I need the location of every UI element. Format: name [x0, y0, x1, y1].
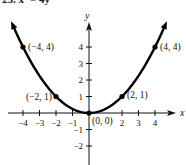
data-point [152, 44, 157, 49]
x-tick-label: −2 [51, 118, 61, 128]
y-tick-label: 3 [79, 59, 84, 69]
point-label: (4, 4) [160, 42, 181, 53]
x-tick-label: −3 [35, 118, 45, 128]
y-tick-label: 1 [79, 92, 84, 102]
y-tick-label: −2 [73, 141, 83, 151]
curve-arrow-right-icon [161, 21, 167, 30]
data-point [86, 110, 91, 115]
data-point [119, 94, 124, 99]
point-label: (2, 1) [127, 90, 148, 101]
parabola-chart: xy−4−3−2−12344321−1−2(−4, 4)(−2, 1)(0, 0… [0, 0, 186, 165]
curve-arrow-left-icon [11, 21, 17, 30]
data-point [20, 44, 25, 49]
point-label: (−4, 4) [28, 42, 54, 53]
y-axis-label: y [84, 10, 90, 21]
x-tick-label: 2 [120, 118, 125, 128]
data-point [53, 94, 58, 99]
x-tick-label: −4 [18, 118, 28, 128]
x-tick-label: 3 [136, 118, 141, 128]
point-label: (0, 0) [92, 116, 113, 127]
y-tick-label: −1 [73, 125, 83, 135]
point-label: (−2, 1) [26, 92, 52, 103]
y-tick-label: 2 [79, 75, 84, 85]
x-axis-label: x [179, 107, 185, 118]
x-tick-label: 4 [153, 118, 158, 128]
y-tick-label: 4 [79, 42, 84, 52]
